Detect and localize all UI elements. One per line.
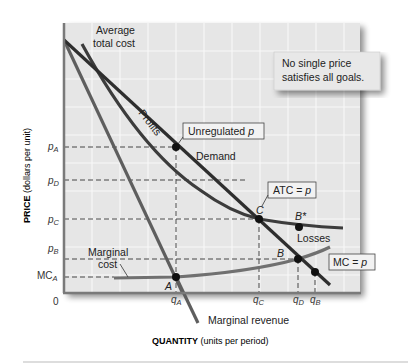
svg-text:pD: pD [47, 175, 60, 188]
svg-text:No single price: No single price [282, 57, 352, 69]
svg-text:MCA: MCA [37, 270, 58, 283]
y-tick-labels: pA pD pC pB MCA [37, 141, 60, 283]
svg-text:pC: pC [47, 214, 60, 227]
svg-text:ATC = p: ATC = p [273, 184, 311, 196]
point-b [294, 255, 302, 263]
point-c-label: C [256, 204, 264, 216]
losses-label: Losses [297, 232, 330, 244]
atc-label-line2: total cost [93, 37, 135, 49]
point-qb [311, 268, 319, 276]
svg-text:Unregulated p: Unregulated p [188, 125, 254, 137]
svg-text:satisfies all goals.: satisfies all goals. [282, 71, 364, 83]
monopoly-regulation-diagram: Average total cost Demand Profits Losses… [0, 0, 408, 364]
svg-text:qB: qB [310, 294, 321, 307]
svg-text:qD: qD [293, 294, 305, 307]
svg-text:MC = p: MC = p [333, 256, 367, 268]
svg-text:qA: qA [171, 294, 182, 307]
note-box: No single price satisfies all goals. [274, 52, 380, 90]
point-b-label: B [277, 247, 284, 259]
mc-label-line1: Marginal [88, 246, 128, 258]
y-axis-title: PRICE (dollars per unit) [22, 128, 32, 223]
svg-text:qC: qC [253, 294, 265, 307]
x-axis-title: QUANTITY (units per period) [152, 336, 269, 346]
point-b-star-label: B* [295, 210, 307, 222]
mc-equals-p-callout: MC = p [329, 254, 375, 270]
point-b-star [295, 223, 303, 231]
point-a-label: A [164, 280, 172, 292]
point-a [172, 273, 180, 281]
point-c [255, 215, 263, 223]
mc-label-line2: cost [98, 258, 117, 270]
svg-text:pB: pB [47, 243, 59, 256]
mr-label: Marginal revenue [208, 314, 289, 326]
svg-text:0: 0 [53, 296, 59, 307]
svg-text:pA: pA [47, 141, 59, 154]
demand-label: Demand [196, 150, 236, 162]
atc-label-line1: Average [96, 24, 135, 36]
point-unregulated [172, 143, 180, 151]
